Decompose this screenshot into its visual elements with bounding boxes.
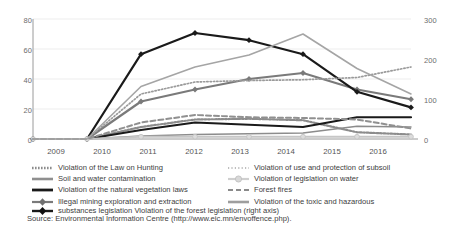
legend-item-hunting[interactable]: Violation of the Law on Hunting: [32, 163, 232, 174]
legend-item-forest-fires[interactable]: Forest fires: [228, 185, 452, 196]
y-left-tick-40: 40: [10, 76, 32, 85]
x-tick-2016: 2016: [355, 147, 401, 156]
legend-item-water-legislation[interactable]: Violation of legislation on water: [228, 174, 452, 185]
x-tick-2010: 2010: [79, 147, 125, 156]
light-circle-key-icon: [228, 174, 250, 184]
x-tick-2009: 2009: [33, 147, 79, 156]
chart-legend: Violation of the Law on Hunting Soil and…: [0, 163, 456, 209]
dashed-key-icon: [228, 185, 250, 195]
legend-item-subsoil[interactable]: Violation of use and protection of subso…: [228, 163, 452, 174]
x-tick-2014: 2014: [263, 147, 309, 156]
x-tick-2012: 2012: [171, 147, 217, 156]
y-left-tick-20: 20: [10, 106, 32, 115]
y-left-tick-0: 0: [10, 136, 32, 145]
dotted-key-icon: [32, 163, 54, 173]
chart-svg: [0, 0, 456, 160]
y-right-tick-100: 100: [424, 96, 450, 105]
y-right-tick-200: 200: [424, 56, 450, 65]
legend-label: Violation of the Law on Hunting: [58, 163, 163, 173]
chart-figure: 80 60 40 20 0 300 200 100 0 2009 2010 20…: [0, 0, 456, 234]
legend-label: Violation of use and protection of subso…: [254, 163, 390, 173]
y-left-tick-60: 60: [10, 46, 32, 55]
legend-item-vegetation[interactable]: Violation of the natural vegetation laws: [32, 185, 232, 196]
fine-dotted-key-icon: [228, 163, 250, 173]
source-note: Source: Environmental Information Centre…: [27, 214, 292, 223]
legend-item-soil-water[interactable]: Soil and water contamination: [32, 174, 232, 185]
black-thick-key-icon: [32, 185, 54, 195]
y-right-tick-300: 300: [424, 16, 450, 25]
legend-label: Soil and water contamination: [58, 174, 156, 184]
y-right-tick-0: 0: [424, 136, 450, 145]
y-left-tick-80: 80: [10, 16, 32, 25]
legend-column-right: Violation of use and protection of subso…: [228, 163, 452, 207]
x-tick-2015: 2015: [309, 147, 355, 156]
chart-plot-area: 80 60 40 20 0 300 200 100 0 2009 2010 20…: [0, 0, 456, 160]
legend-label: Violation of legislation on water: [254, 174, 359, 184]
legend-label: Violation of the natural vegetation laws: [58, 185, 188, 195]
gray-solid-key-icon: [32, 174, 54, 184]
x-tick-2013: 2013: [217, 147, 263, 156]
legend-column-left: Violation of the Law on Hunting Soil and…: [32, 163, 232, 207]
legend-label: Forest fires: [254, 185, 292, 195]
x-tick-2011: 2011: [125, 147, 171, 156]
